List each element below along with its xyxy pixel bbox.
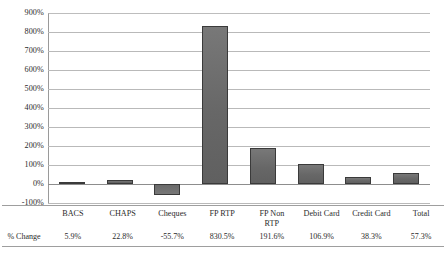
table-row-label: % Change [0,232,48,242]
y-axis-tick-label: 300% [0,123,44,131]
y-axis-tick-label: 900% [0,9,44,17]
y-axis-tick-labels: 900% 800% 700% 600% 500% 400% 300% 200% … [0,13,44,203]
y-axis-tick-label: 800% [0,28,44,36]
bar-slot-total [382,13,430,203]
category-label: Cheques [158,209,186,218]
value-cell-bacs: 5.9% [48,232,98,242]
category-header-fp-non-rtp: FP Non RTP [247,209,297,228]
table-bottom-rule [2,246,444,247]
category-label-line2: RTP [247,219,297,229]
bar-slot-bacs [48,13,96,203]
bar-series [48,13,430,203]
value-cell-fp-non-rtp: 191.6% [247,232,297,242]
category-label: FP RTP [209,209,234,218]
category-label: CHAPS [109,209,135,218]
gridline [48,203,430,204]
value-cell-credit-card: 38.3% [347,232,397,242]
bar-chart-figure: 900% 800% 700% 600% 500% 400% 300% 200% … [0,0,446,258]
category-label: FP Non [259,209,284,218]
category-label: Debit Card [304,209,340,218]
value-cell-cheques: -55.7% [148,232,198,242]
category-header-credit-card: Credit Card [347,209,397,219]
bar-total [393,173,419,184]
bar-slot-fp-rtp [191,13,239,203]
category-label: Credit Card [352,209,390,218]
bar-cheques [154,184,180,195]
category-label: BACS [62,209,83,218]
bar-slot-fp-non-rtp [239,13,287,203]
bar-fp-rtp [202,26,228,184]
y-axis-tick-label: 400% [0,104,44,112]
bar-slot-credit-card [335,13,383,203]
bar-bacs [59,182,85,184]
bar-chaps [107,180,133,184]
bar-debit-card [298,164,324,184]
category-header-cheques: Cheques [148,209,198,219]
bar-credit-card [345,177,371,184]
bar-slot-debit-card [287,13,335,203]
y-axis-tick-label: 500% [0,85,44,93]
category-label: Total [413,209,430,218]
value-cell-fp-rtp: 830.5% [197,232,247,242]
category-header-chaps: CHAPS [98,209,148,219]
category-header-fp-rtp: FP RTP [197,209,247,219]
bar-fp-non-rtp [250,148,276,184]
table-value-row: % Change 5.9% 22.8% -55.7% 830.5% 191.6%… [0,232,446,242]
category-header-debit-card: Debit Card [297,209,347,219]
bar-slot-cheques [144,13,192,203]
table-top-rule [2,205,444,206]
y-axis-tick-label: 700% [0,47,44,55]
value-cell-debit-card: 106.9% [297,232,347,242]
value-cell-chaps: 22.8% [98,232,148,242]
table-header-row: BACS CHAPS Cheques FP RTP FP Non RTP Deb… [0,209,446,228]
y-axis-tick-label: 600% [0,66,44,74]
plot-area [48,13,430,203]
y-axis-tick-label: 0% [0,180,44,188]
bar-slot-chaps [96,13,144,203]
category-header-bacs: BACS [48,209,98,219]
category-header-total: Total [396,209,446,219]
value-cell-total: 57.3% [396,232,446,242]
y-axis-tick-label: 100% [0,161,44,169]
y-axis-tick-label: 200% [0,142,44,150]
